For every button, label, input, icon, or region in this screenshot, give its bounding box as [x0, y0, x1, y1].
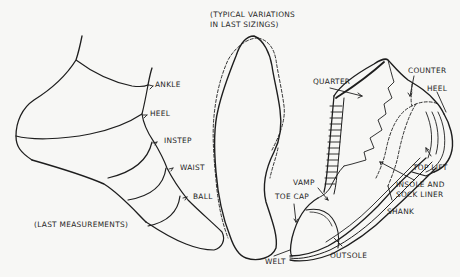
label-instep: INSTEP	[164, 136, 192, 145]
label-heel-part: HEEL	[427, 84, 447, 93]
label-vamp: VAMP	[293, 178, 315, 187]
label-heel-measurement: HEEL	[150, 109, 170, 118]
sizing-outline-drawing	[213, 36, 284, 260]
label-outsole: OUTSOLE	[330, 251, 367, 260]
label-waist: WAIST	[180, 163, 205, 172]
label-ankle: ANKLE	[155, 80, 181, 89]
caption-sizings-line2: IN LAST SIZINGS)	[210, 20, 279, 29]
last-drawing	[16, 36, 224, 250]
diagram-artwork	[0, 0, 460, 277]
label-ball: BALL	[193, 192, 213, 201]
label-insole-line2: SOCK LINER	[396, 190, 444, 199]
shoe-drawing	[274, 59, 453, 261]
label-insole-line1: INSOLE AND	[396, 180, 445, 189]
label-top-lift: TOP LIFT	[413, 163, 447, 172]
label-welt: WELT	[265, 257, 286, 266]
label-shank: SHANK	[387, 207, 414, 216]
label-quarter: QUARTER	[313, 77, 350, 86]
label-counter: COUNTER	[408, 66, 446, 75]
caption-sizings-line1: (TYPICAL VARIATIONS	[210, 10, 295, 19]
caption-last-measurements: (LAST MEASUREMENTS)	[34, 220, 128, 229]
shoe-anatomy-diagram: ANKLE HEEL INSTEP WAIST BALL (LAST MEASU…	[0, 0, 460, 277]
label-toe-cap: TOE CAP	[275, 192, 309, 201]
